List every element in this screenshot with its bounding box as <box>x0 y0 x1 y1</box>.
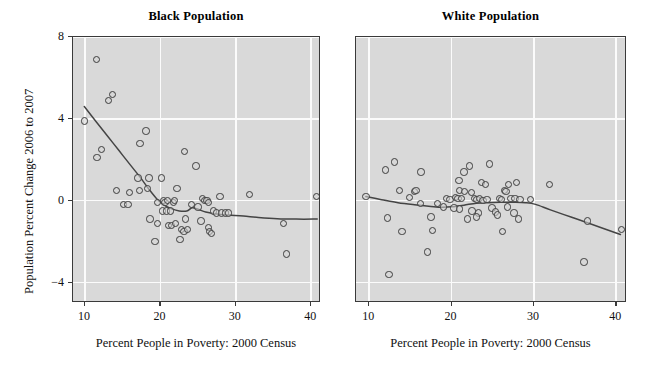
data-point <box>173 185 180 192</box>
data-point <box>192 162 199 169</box>
x-tick-mark <box>368 302 369 306</box>
data-point <box>172 220 179 227</box>
x-tick-label: 40 <box>609 309 621 324</box>
data-point <box>460 168 467 175</box>
x-tick-label: 20 <box>445 309 457 324</box>
y-tick-mark <box>68 200 72 201</box>
x-tick-mark <box>159 302 160 306</box>
y-tick-label: −4 <box>38 274 64 289</box>
y-tick-mark <box>68 282 72 283</box>
data-point <box>486 160 493 167</box>
data-point <box>466 162 473 169</box>
data-point <box>482 181 489 188</box>
data-point <box>362 193 369 200</box>
panel-title-white-population: White Population <box>355 9 626 24</box>
data-point <box>81 117 88 124</box>
data-point <box>142 127 149 134</box>
x-tick-label: 30 <box>229 309 241 324</box>
data-point <box>385 271 392 278</box>
y-tick-label: 8 <box>38 29 64 44</box>
x-tick-mark <box>533 302 534 306</box>
x-tick-label: 30 <box>527 309 539 324</box>
y-tick-mark <box>68 118 72 119</box>
y-tick-label: 4 <box>38 110 64 125</box>
data-point <box>194 203 201 210</box>
x-axis-label-white-population: Percent People in Poverty: 2000 Census <box>355 336 626 351</box>
data-point <box>145 174 152 181</box>
data-point <box>515 215 522 222</box>
x-axis-label-black-population: Percent People in Poverty: 2000 Census <box>72 336 320 351</box>
data-point <box>109 91 116 98</box>
data-point <box>216 193 223 200</box>
data-point <box>283 250 290 257</box>
plot-area-white-population <box>355 36 626 302</box>
x-tick-label: 40 <box>304 309 316 324</box>
data-point <box>584 217 591 224</box>
data-point <box>154 220 161 227</box>
data-point <box>455 177 462 184</box>
data-point <box>483 196 490 203</box>
data-point <box>391 158 398 165</box>
x-tick-mark <box>451 302 452 306</box>
data-point <box>516 196 523 203</box>
data-point <box>134 174 141 181</box>
data-point <box>225 209 232 216</box>
data-point <box>427 213 434 220</box>
data-point <box>417 168 424 175</box>
data-point <box>502 188 509 195</box>
data-point <box>412 187 419 194</box>
data-point <box>182 215 189 222</box>
data-point <box>618 226 625 233</box>
plot-area-black-population <box>72 36 320 302</box>
data-point <box>580 258 587 265</box>
x-tick-mark <box>84 302 85 306</box>
data-point <box>440 203 447 210</box>
panel-title-black-population: Black Population <box>72 9 320 24</box>
data-point <box>280 220 287 227</box>
data-point <box>464 215 471 222</box>
x-tick-label: 10 <box>78 309 90 324</box>
x-tick-mark <box>615 302 616 306</box>
y-tick-label: 0 <box>38 192 64 207</box>
data-point <box>473 213 480 220</box>
data-point <box>384 214 391 221</box>
y-tick-mark <box>68 36 72 37</box>
y-axis-label: Population Percent Change 2006 to 2007 <box>22 89 37 294</box>
data-point <box>494 211 501 218</box>
figure-panel-pair: Population Percent Change 2006 to 2007 B… <box>0 0 645 365</box>
data-point <box>158 174 165 181</box>
data-point <box>146 215 153 222</box>
x-tick-label: 20 <box>153 309 165 324</box>
data-point <box>456 205 463 212</box>
x-tick-mark <box>310 302 311 306</box>
data-point <box>176 236 183 243</box>
data-point <box>136 140 143 147</box>
x-tick-mark <box>235 302 236 306</box>
data-point <box>382 166 389 173</box>
data-point <box>197 217 204 224</box>
data-point <box>398 228 405 235</box>
data-point <box>424 248 431 255</box>
data-point <box>167 207 174 214</box>
x-tick-label: 10 <box>362 309 374 324</box>
